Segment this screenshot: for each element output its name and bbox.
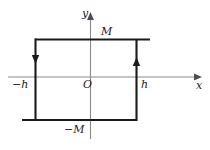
origin-label: O [83, 79, 92, 90]
upper-level-label: M [101, 26, 112, 37]
left-threshold-label: −h [12, 79, 28, 90]
figure-canvas [0, 0, 210, 150]
y-axis-label: y [82, 8, 88, 19]
hysteresis-loop-figure: y x M −M O h −h [0, 0, 210, 150]
right-branch-direction-arrow [133, 57, 140, 66]
x-axis-label: x [196, 80, 202, 91]
left-branch-direction-arrow [32, 55, 39, 64]
lower-level-label: −M [64, 124, 84, 135]
right-threshold-label: h [141, 79, 148, 90]
